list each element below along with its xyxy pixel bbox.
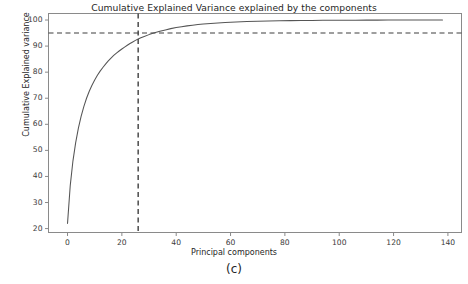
x-tick-label: 100 [319, 238, 359, 247]
x-tick-label: 120 [374, 238, 414, 247]
y-tick-marks [45, 20, 49, 229]
x-tick-marks [68, 233, 448, 237]
x-tick-label: 0 [48, 238, 88, 247]
y-tick-label: 20 [1, 224, 43, 233]
axes-frame [49, 14, 462, 233]
x-axis-label: Principal components [0, 248, 468, 257]
y-axis-label: Cumulative Explained variance [22, 0, 31, 155]
x-tick-label: 80 [265, 238, 305, 247]
y-tick-label: 40 [1, 171, 43, 180]
y-tick-label: 30 [1, 198, 43, 207]
x-tick-label: 20 [102, 238, 142, 247]
figure-container: Cumulative Explained Variance explained … [0, 0, 468, 284]
figure-caption: (c) [0, 262, 468, 276]
x-tick-label: 60 [211, 238, 251, 247]
x-tick-label: 40 [156, 238, 196, 247]
x-tick-label: 140 [428, 238, 468, 247]
